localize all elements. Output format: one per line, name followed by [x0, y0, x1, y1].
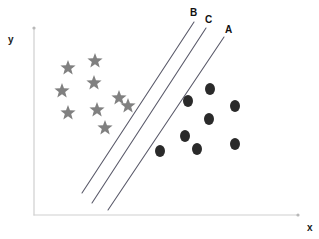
x-axis-label: x	[307, 223, 313, 233]
decision-boundary-lines	[82, 22, 224, 210]
line-label-b: B	[190, 8, 197, 18]
star-marker	[111, 90, 126, 104]
circle-marker	[204, 113, 214, 125]
star-marker	[97, 120, 112, 134]
axes-group	[32, 26, 299, 216]
star-marker	[54, 83, 69, 97]
line-label-a: A	[225, 25, 232, 35]
boundary-line-c	[92, 28, 206, 203]
plot-canvas	[0, 0, 319, 239]
y-axis-tip	[32, 26, 35, 29]
circle-marker	[155, 145, 165, 157]
circle-marker	[230, 100, 240, 112]
star-marker	[60, 60, 75, 74]
circle-marker	[183, 95, 193, 107]
circle-marker	[192, 143, 202, 155]
scatter-plot-figure: y x B C A	[0, 0, 319, 239]
y-axis-label: y	[8, 35, 14, 45]
circle-marker	[230, 138, 240, 150]
star-marker	[60, 105, 75, 119]
circle-marker	[205, 83, 215, 95]
star-marker	[87, 53, 102, 67]
x-axis-tip	[296, 213, 299, 216]
circle-marker	[180, 130, 190, 142]
star-markers-group	[54, 53, 135, 134]
line-label-c: C	[205, 15, 212, 25]
star-marker	[120, 98, 135, 112]
star-marker	[89, 102, 104, 116]
star-marker	[86, 75, 101, 89]
